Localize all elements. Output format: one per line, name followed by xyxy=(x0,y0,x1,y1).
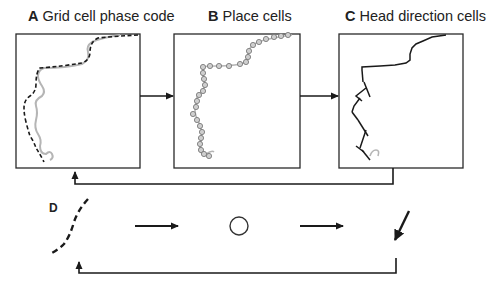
d-feedback-arrow xyxy=(79,258,396,273)
d-direction-arrow xyxy=(395,211,409,240)
feedback-arrow-c-to-a xyxy=(75,168,393,184)
panel-b xyxy=(174,32,300,168)
d-circle xyxy=(230,217,248,235)
panel-b-frame xyxy=(174,34,300,168)
d-dashed-curve xyxy=(50,199,88,254)
panel-a-frame xyxy=(16,34,140,168)
panel-c xyxy=(339,34,463,168)
panel-a xyxy=(16,34,140,168)
